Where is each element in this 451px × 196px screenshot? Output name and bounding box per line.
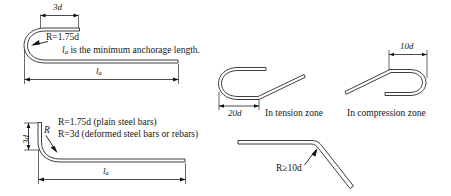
dimension-arrow-right (74, 14, 79, 18)
la2-arrow-left (39, 178, 45, 182)
la2-arrow-right (180, 178, 186, 182)
caption-in-tension-zone: In tension zone (265, 109, 323, 119)
label-radius-plain-bars: R=1.75d (plain steel bars) (58, 118, 157, 128)
figure-tension-zone-hook (219, 68, 306, 111)
la-symbol-sub-a: a (99, 69, 102, 76)
rebar-tension-hook-outline (219, 68, 306, 100)
radius-leader-arrowhead (31, 40, 40, 46)
label-radius-ge-10d: R≥10d (276, 164, 302, 174)
diagram-canvas: 3d R=1.75d la is the minimum anchorage l… (0, 0, 451, 196)
t20d-arrow-right (254, 104, 259, 108)
figure-compression-zone-hook (345, 50, 427, 96)
v3d-arrow-bottom (27, 145, 31, 150)
dimension-arrow-left (41, 14, 46, 18)
c10d-arrow-right (422, 53, 427, 57)
r-leader-arrowhead (51, 146, 58, 153)
label-dimension-20d: 20d (228, 109, 242, 118)
rebar-compression-hook-outline (345, 70, 426, 96)
label-radius-callout-r: R (44, 126, 50, 136)
note-text-rest: is the minimum anchorage length. (68, 45, 200, 55)
label-anchorage-note: la is the minimum anchorage length. (62, 46, 200, 56)
figure-vector-layer (0, 0, 451, 196)
caption-in-compression-zone: In compression zone (347, 109, 426, 119)
la-arrow-left (25, 78, 31, 82)
la-arrow-right (173, 78, 179, 82)
label-radius-1-75d: R=1.75d (46, 33, 79, 43)
t20d-arrow-left (219, 104, 224, 108)
label-radius-deformed-bars: R=3d (deformed steel bars or rebars) (58, 130, 198, 140)
v3d-arrow-top (27, 123, 31, 128)
c10d-arrow-left (389, 53, 394, 57)
label-dimension-10d: 10d (400, 42, 414, 51)
label-dimension-la-bottom-figure: la (103, 167, 109, 177)
radius-callout-symbol: R (44, 125, 50, 135)
label-vertical-dimension-3d: 3d (22, 135, 31, 144)
label-dimension-la-top-figure: la (96, 67, 102, 77)
la2-symbol-sub-a: a (106, 169, 109, 176)
label-top-dimension-3d: 3d (53, 3, 62, 12)
